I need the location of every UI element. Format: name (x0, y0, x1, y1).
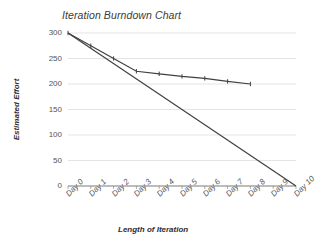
data-series-layer (68, 31, 296, 186)
iteration-burndown-chart: Iteration Burndown Chart Estimated Effor… (0, 0, 324, 245)
plot-area (0, 0, 324, 245)
